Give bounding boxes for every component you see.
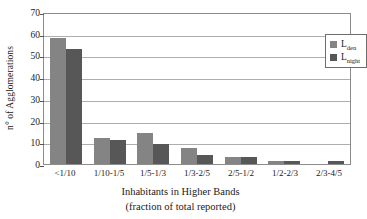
y-axis-tick-label: 30 bbox=[14, 95, 40, 105]
legend-label-subscript: den bbox=[347, 44, 356, 51]
x-axis-tick-label: 1/3-2/5 bbox=[175, 167, 219, 179]
y-axis-tick-label: 70 bbox=[14, 8, 40, 18]
x-axis-tick-labels: <1/101/10-1/51/5-1/31/3-2/52/5-1/21/2-2/… bbox=[43, 167, 351, 179]
bar-Lnight-3 bbox=[197, 155, 213, 164]
x-axis-title-line-1: Inhabitants in Higher Bands bbox=[0, 184, 361, 199]
bar-group bbox=[88, 14, 132, 164]
legend-swatch-icon bbox=[330, 41, 337, 48]
bar-Lnight-0 bbox=[66, 49, 82, 164]
bar-Lden-3 bbox=[181, 148, 197, 164]
bar-group bbox=[263, 14, 307, 164]
y-axis-tick-labels: 010203040506070 bbox=[14, 13, 40, 165]
legend-swatch-icon bbox=[330, 54, 337, 61]
bar-Lden-0 bbox=[50, 38, 66, 164]
y-axis-tick-label: 50 bbox=[14, 51, 40, 61]
bar-Lden-2 bbox=[137, 133, 153, 164]
chart-legend: LdenLnight bbox=[325, 34, 367, 68]
bar-group bbox=[175, 14, 219, 164]
legend-label: Lnight bbox=[341, 52, 360, 63]
bar-Lnight-4 bbox=[241, 157, 257, 164]
plot-area: LdenLnight bbox=[43, 13, 351, 165]
x-axis-tick-label: 1/10-1/5 bbox=[87, 167, 131, 179]
y-axis-tick-label: 10 bbox=[14, 138, 40, 148]
x-axis-tick-label: 2/5-1/2 bbox=[219, 167, 263, 179]
x-axis-tick-label: 1/2-2/3 bbox=[263, 167, 307, 179]
legend-label: Lden bbox=[341, 39, 356, 50]
bar-Lnight-5 bbox=[284, 161, 300, 164]
bar-group bbox=[219, 14, 263, 164]
x-axis-tick-label: <1/10 bbox=[43, 167, 87, 179]
legend-label-subscript: night bbox=[347, 57, 360, 64]
y-axis-tick-label: 40 bbox=[14, 73, 40, 83]
legend-item-Lnight: Lnight bbox=[330, 51, 360, 64]
x-axis-tick-label: 2/3-4/5 bbox=[307, 167, 351, 179]
bar-Lnight-1 bbox=[110, 140, 126, 164]
legend-item-Lden: Lden bbox=[330, 38, 360, 51]
x-axis-title-line-2: (fraction of total reported) bbox=[0, 199, 361, 214]
bar-Lnight-6 bbox=[328, 161, 344, 164]
x-axis-title: Inhabitants in Higher Bands (fraction of… bbox=[0, 184, 361, 214]
bar-Lden-4 bbox=[225, 157, 241, 164]
x-axis-tick-label: 1/5-1/3 bbox=[131, 167, 175, 179]
y-axis-tick-label: 20 bbox=[14, 117, 40, 127]
y-axis-tick-label: 60 bbox=[14, 30, 40, 40]
bar-Lden-1 bbox=[94, 138, 110, 164]
bar-Lnight-2 bbox=[153, 144, 169, 164]
bar-group bbox=[131, 14, 175, 164]
bar-Lden-5 bbox=[268, 161, 284, 164]
bars-layer bbox=[44, 14, 350, 164]
bar-group bbox=[44, 14, 88, 164]
y-axis-tick-label: 0 bbox=[14, 160, 40, 170]
